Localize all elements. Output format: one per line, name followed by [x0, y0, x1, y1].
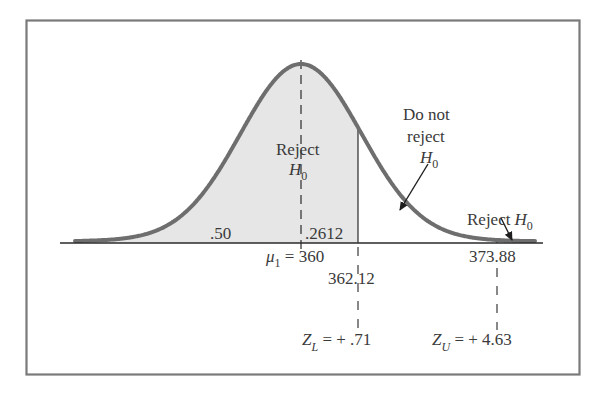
- reject-left-label: Reject: [276, 140, 320, 159]
- mean-value-label: μ1 = 360: [265, 247, 324, 270]
- z-upper-label: ZU = + 4.63: [432, 330, 512, 354]
- do-not-reject-arrow: [400, 164, 428, 210]
- do-not-reject-label-line1: Do not: [403, 105, 450, 124]
- do-not-reject-h0: H0: [419, 148, 438, 171]
- normal-distribution-figure: Reject H0 Do not reject H0 RejectH0 .50 …: [0, 0, 607, 395]
- z-lower-label: ZL = + .71: [302, 330, 371, 354]
- lower-critical-value-label: 362.12: [328, 269, 375, 288]
- reject-right-label: RejectH0: [467, 210, 533, 233]
- area-mid-label: .2612: [305, 224, 343, 243]
- area-left-label: .50: [210, 224, 231, 243]
- upper-critical-value-label: 373.88: [469, 247, 516, 266]
- do-not-reject-label-line2: reject: [407, 127, 445, 146]
